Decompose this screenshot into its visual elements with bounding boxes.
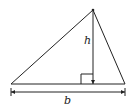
triangle [11, 10, 125, 84]
height-label: h [84, 34, 91, 47]
base-arrowhead-right-icon [121, 90, 125, 94]
base-label: b [64, 94, 71, 107]
triangle-diagram: h b [0, 0, 135, 110]
height-arrowhead-icon [91, 80, 95, 84]
right-angle-marker [81, 74, 93, 84]
base-arrowhead-left-icon [11, 90, 15, 94]
